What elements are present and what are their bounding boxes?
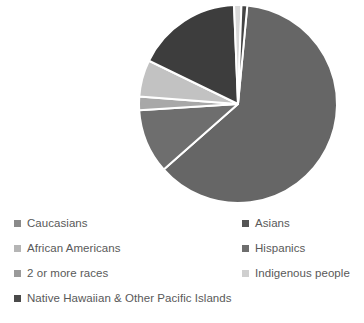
- legend-item-caucasians[interactable]: Caucasians: [14, 216, 242, 230]
- legend-row: Native Hawaiian & Other Pacific Islands: [14, 291, 358, 316]
- legend-label-hispanics: Hispanics: [255, 241, 305, 255]
- legend-label-caucasians: Caucasians: [27, 216, 88, 230]
- pie-chart-figure: Caucasians Asians African Americans Hisp…: [0, 0, 364, 323]
- legend-swatch-native-hawaiian-other-pacific-islands: [14, 295, 21, 302]
- legend-label-asians: Asians: [255, 216, 290, 230]
- legend-label-native-hawaiian-other-pacific-islands: Native Hawaiian & Other Pacific Islands: [27, 291, 232, 305]
- legend-item-2-or-more-races[interactable]: 2 or more races: [14, 266, 242, 280]
- legend-row: 2 or more races Indigenous people: [14, 266, 358, 291]
- legend-item-african-americans[interactable]: African Americans: [14, 241, 242, 255]
- legend-swatch-indigenous-people: [242, 270, 249, 277]
- legend-item-asians[interactable]: Asians: [242, 216, 358, 230]
- legend-item-native-hawaiian-other-pacific-islands[interactable]: Native Hawaiian & Other Pacific Islands: [14, 291, 358, 305]
- legend-swatch-caucasians: [14, 220, 21, 227]
- legend-label-2-or-more-races: 2 or more races: [27, 266, 108, 280]
- chart-legend: Caucasians Asians African Americans Hisp…: [0, 216, 364, 323]
- legend-label-african-americans: African Americans: [27, 241, 121, 255]
- legend-label-indigenous-people: Indigenous people: [255, 266, 350, 280]
- legend-swatch-2-or-more-races: [14, 270, 21, 277]
- pie-svg: [0, 0, 364, 212]
- pie-plot-area: [0, 0, 364, 212]
- legend-row: African Americans Hispanics: [14, 241, 358, 266]
- legend-row: Caucasians Asians: [14, 216, 358, 241]
- legend-item-indigenous-people[interactable]: Indigenous people: [242, 266, 358, 280]
- legend-swatch-asians: [242, 220, 249, 227]
- legend-item-hispanics[interactable]: Hispanics: [242, 241, 358, 255]
- legend-swatch-hispanics: [242, 245, 249, 252]
- legend-swatch-african-americans: [14, 245, 21, 252]
